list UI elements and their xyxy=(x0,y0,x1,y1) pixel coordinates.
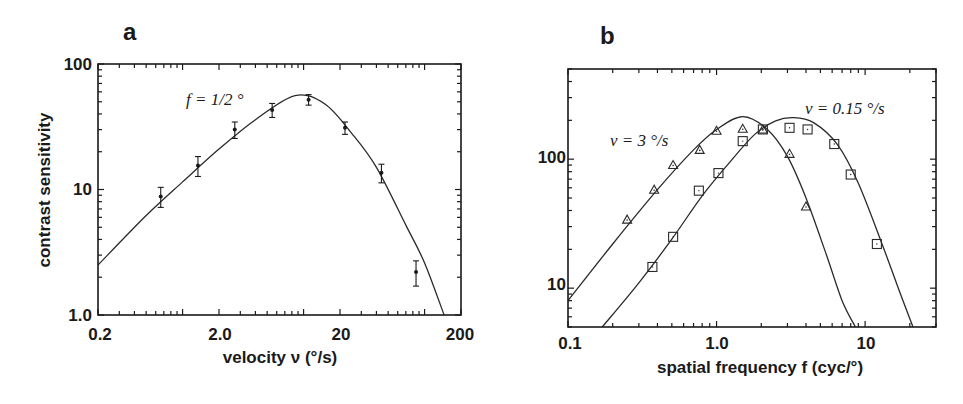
figure: a contrast sensitivity 100 10 1.0 0.2 2.… xyxy=(0,0,963,404)
fit-curve xyxy=(98,95,444,315)
panel-b-xlabel: spatial frequency f (cyc/°) xyxy=(657,358,863,377)
panel-a-xtick-2: 2.0 xyxy=(208,325,232,344)
panel-b: b 100 10 0.1 1.0 10 spatial frequency f … xyxy=(538,22,936,377)
data-point xyxy=(270,108,274,112)
plot-frame xyxy=(98,64,461,315)
panel-a-xtick-20: 20 xyxy=(332,325,351,344)
data-point xyxy=(414,270,418,274)
panel-b-xtick-1: 1.0 xyxy=(705,334,729,353)
panel-a-ylabel: contrast sensitivity xyxy=(35,112,54,267)
panel-a-ytick-100: 100 xyxy=(64,55,92,74)
panel-a-ytick-1: 1.0 xyxy=(68,306,92,325)
panel-a-ytick-10: 10 xyxy=(73,180,92,199)
panel-a-annotation: f = 1/2 ° xyxy=(186,90,244,109)
panel-b-annotation-fast: ν = 3 °/s xyxy=(610,131,669,150)
data-point xyxy=(196,164,200,168)
panel-b-label: b xyxy=(600,22,615,49)
panel-a-plot-area xyxy=(98,64,461,315)
data-point xyxy=(233,128,237,132)
axis-ticks xyxy=(98,64,461,315)
panel-a-xtick-0.2: 0.2 xyxy=(88,325,112,344)
panel-b-ytick-100: 100 xyxy=(538,148,566,167)
panel-a-xtick-200: 200 xyxy=(446,325,474,344)
data-point xyxy=(379,171,383,175)
data-series xyxy=(648,123,881,271)
panel-b-xtick-0.1: 0.1 xyxy=(558,334,582,353)
panel-b-xtick-10: 10 xyxy=(857,334,876,353)
panel-a-xlabel: velocity ν (°/s) xyxy=(223,348,338,367)
data-series xyxy=(158,95,419,286)
panel-b-annotation-slow: ν = 0.15 °/s xyxy=(805,99,885,118)
panel-a-label: a xyxy=(123,18,137,45)
panel-b-ytick-10: 10 xyxy=(547,275,566,294)
data-point xyxy=(159,194,163,198)
triangle-marker xyxy=(738,124,747,132)
data-point xyxy=(343,126,347,130)
data-point xyxy=(307,98,311,102)
panel-a: a contrast sensitivity 100 10 1.0 0.2 2.… xyxy=(35,18,474,367)
